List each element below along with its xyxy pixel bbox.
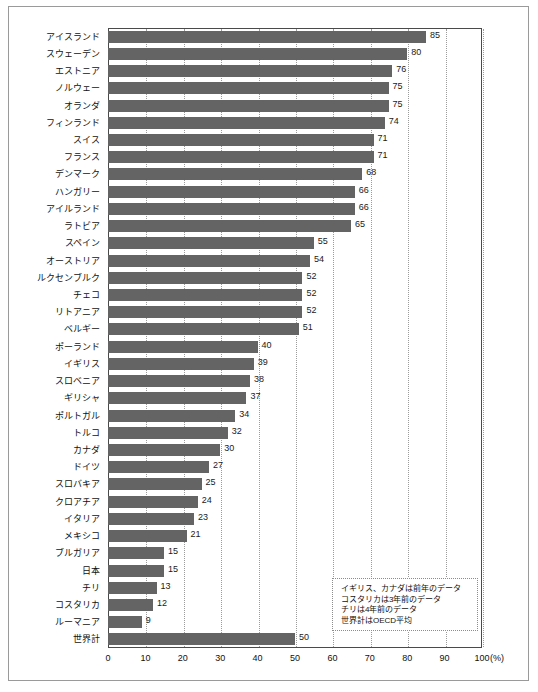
bar <box>108 289 302 301</box>
x-tick-label-70: 70 <box>365 652 375 664</box>
bar-value-label: 24 <box>202 494 212 506</box>
bar-value-label: 13 <box>161 580 171 592</box>
category-label: スペイン <box>0 237 104 249</box>
category-label: ノルウェー <box>0 82 104 94</box>
bar-row: 27 <box>108 461 482 473</box>
bar <box>108 82 389 94</box>
x-tick-label-100: 100 <box>474 652 489 664</box>
bar-row: 34 <box>108 410 482 422</box>
category-label: オーストリア <box>0 255 104 267</box>
x-tick-label-40: 40 <box>253 652 263 664</box>
x-tick-label-20: 20 <box>178 652 188 664</box>
bar <box>108 323 299 335</box>
bar-row: 85 <box>108 31 482 43</box>
bar-value-label: 66 <box>359 184 369 196</box>
x-tick-label-90: 90 <box>440 652 450 664</box>
category-label: アイルランド <box>0 203 104 215</box>
bar-row: 51 <box>108 323 482 335</box>
bar-row: 25 <box>108 478 482 490</box>
bar-row: 21 <box>108 530 482 542</box>
category-label: フィンランド <box>0 117 104 129</box>
bar <box>108 151 374 163</box>
bar <box>108 48 407 60</box>
bar-value-label: 71 <box>378 132 388 144</box>
category-label: ルクセンブルク <box>0 272 104 284</box>
bar <box>108 530 187 542</box>
category-label: ポルトガル <box>0 410 104 422</box>
annotation-line-3: チリは4年前のデータ <box>341 605 473 616</box>
x-axis-unit-label: (%) <box>490 652 504 664</box>
bar <box>108 31 426 43</box>
bar <box>108 186 355 198</box>
bar <box>108 633 295 645</box>
bar <box>108 478 202 490</box>
bar-row: 30 <box>108 444 482 456</box>
x-tick-label-0: 0 <box>105 652 110 664</box>
category-label: スロバキア <box>0 478 104 490</box>
bar-row: 38 <box>108 375 482 387</box>
bar-value-label: 71 <box>378 149 388 161</box>
bar-value-label: 51 <box>303 321 313 333</box>
category-label: 日本 <box>0 565 104 577</box>
category-label: デンマーク <box>0 168 104 180</box>
bar-value-label: 52 <box>306 270 316 282</box>
bar-value-label: 85 <box>430 29 440 41</box>
category-label: オランダ <box>0 100 104 112</box>
category-label: イタリア <box>0 513 104 525</box>
bar-value-label: 39 <box>258 356 268 368</box>
bar <box>108 65 392 77</box>
bar <box>108 547 164 559</box>
x-tick-label-60: 60 <box>327 652 337 664</box>
bar-value-label: 37 <box>250 390 260 402</box>
category-label: ルーマニア <box>0 616 104 628</box>
bar-value-label: 74 <box>389 115 399 127</box>
x-tick-label-30: 30 <box>215 652 225 664</box>
category-label: トルコ <box>0 427 104 439</box>
bar <box>108 237 314 249</box>
bar-row: 37 <box>108 392 482 404</box>
bar-value-label: 32 <box>232 425 242 437</box>
category-label: スイス <box>0 134 104 146</box>
bar-value-label: 52 <box>306 304 316 316</box>
bar <box>108 168 362 180</box>
x-tick-label-80: 80 <box>402 652 412 664</box>
bar-row: 68 <box>108 168 482 180</box>
bar-row: 39 <box>108 358 482 370</box>
bar-value-label: 75 <box>393 98 403 110</box>
bar-row: 75 <box>108 82 482 94</box>
bars-layer: 8580767575747171686666655554525252514039… <box>108 28 482 648</box>
bar-value-label: 75 <box>393 80 403 92</box>
category-label: 世界計 <box>0 633 104 645</box>
bar-value-label: 52 <box>306 287 316 299</box>
bar-row: 71 <box>108 134 482 146</box>
bar-row: 24 <box>108 496 482 508</box>
annotation-note-box: イギリス、カナダは前年のデータコスタリカは3年前のデータチリは4年前のデータ世界… <box>332 578 478 631</box>
category-label: ブルガリア <box>0 547 104 559</box>
bar <box>108 117 385 129</box>
bar-row: 15 <box>108 547 482 559</box>
bar-value-label: 38 <box>254 373 264 385</box>
category-label: エストニア <box>0 65 104 77</box>
bar <box>108 582 157 594</box>
category-label: リトアニア <box>0 306 104 318</box>
bar-value-label: 12 <box>157 597 167 609</box>
bar <box>108 565 164 577</box>
bar <box>108 100 389 112</box>
bar-row: 32 <box>108 427 482 439</box>
bar-value-label: 66 <box>359 201 369 213</box>
bar <box>108 496 198 508</box>
bar-value-label: 9 <box>146 614 151 626</box>
category-label: コスタリカ <box>0 599 104 611</box>
bar <box>108 341 258 353</box>
bar <box>108 203 355 215</box>
category-label: クロアチア <box>0 496 104 508</box>
bar-row: 75 <box>108 100 482 112</box>
bar-value-label: 34 <box>239 408 249 420</box>
x-axis: 0102030405060708090100(%) <box>0 652 538 670</box>
gridline-100 <box>483 29 484 647</box>
bar-value-label: 40 <box>262 339 272 351</box>
bar-row: 65 <box>108 220 482 232</box>
category-label: フランス <box>0 151 104 163</box>
bar <box>108 461 209 473</box>
bar-value-label: 76 <box>396 63 406 75</box>
